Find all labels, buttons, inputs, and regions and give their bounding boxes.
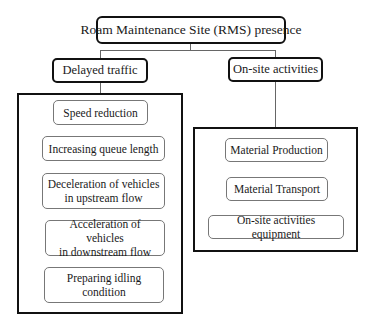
category-label: Delayed traffic — [62, 63, 137, 78]
item-label: Material Transport — [234, 182, 320, 196]
connector-onsite-to-group — [275, 81, 276, 127]
item-label: Material Production — [230, 143, 322, 157]
item-label: On-site activities equipment — [213, 213, 339, 241]
item-on-site-equipment: On-site activities equipment — [208, 215, 344, 239]
item-label-line2: condition — [82, 285, 125, 299]
connector-horizontal — [100, 50, 276, 51]
category-label: On-site activities — [233, 62, 318, 77]
root-node-label: Roam Maintenance Site (RMS) presence — [80, 22, 301, 38]
item-label: Increasing queue length — [49, 142, 159, 156]
connector-left-down — [100, 50, 101, 58]
item-label-line1: Acceleration of vehicles — [50, 217, 160, 245]
item-label-line2: in upstream flow — [65, 191, 143, 205]
item-material-transport: Material Transport — [226, 177, 328, 201]
category-delayed-traffic: Delayed traffic — [52, 58, 148, 83]
item-acceleration-downstream: Acceleration of vehicles in downstream f… — [45, 220, 165, 256]
item-label-line1: Deceleration of vehicles — [48, 177, 160, 191]
item-preparing-idling: Preparing idling condition — [44, 267, 164, 303]
item-increasing-queue-length: Increasing queue length — [42, 136, 165, 161]
root-node: Roam Maintenance Site (RMS) presence — [96, 16, 286, 44]
category-on-site-activities: On-site activities — [228, 57, 323, 82]
connector-right-down — [275, 50, 276, 57]
item-deceleration-upstream: Deceleration of vehicles in upstream flo… — [42, 173, 165, 209]
item-label-line1: Preparing idling — [67, 271, 141, 285]
connector-delayed-to-group — [100, 82, 101, 93]
item-material-production: Material Production — [225, 138, 328, 162]
item-label: Speed reduction — [63, 106, 137, 120]
item-speed-reduction: Speed reduction — [53, 100, 148, 125]
item-label-line2: in downstream flow — [59, 245, 151, 259]
